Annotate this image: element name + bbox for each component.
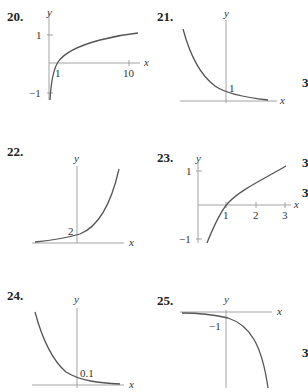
- y-tick-label: −1: [29, 87, 41, 99]
- y-axis-label: y: [73, 293, 79, 305]
- graph-23: y x 1 −1 1 2 3: [179, 152, 299, 245]
- y-axis-label: y: [46, 6, 52, 18]
- y-tick-label: −1: [179, 233, 191, 245]
- x-tick-label: 1: [223, 209, 229, 221]
- curve: [182, 313, 268, 388]
- y-intercept-label: −1: [209, 320, 221, 332]
- graph-24: y x 0.1: [32, 293, 134, 390]
- x-axis-label: x: [128, 236, 134, 248]
- x-axis-label: x: [279, 94, 285, 106]
- x-axis-label: x: [276, 305, 282, 317]
- y-axis-label: y: [73, 152, 79, 164]
- curve: [35, 312, 120, 384]
- y-axis-label: y: [195, 152, 201, 164]
- y-tick-label: 1: [36, 29, 42, 41]
- x-axis-label: x: [143, 56, 149, 68]
- graph-21: y x 1: [180, 7, 285, 106]
- curve: [207, 166, 286, 243]
- y-intercept-label: 2: [68, 225, 74, 237]
- x-axis-label: x: [128, 378, 134, 390]
- x-tick-label: 2: [253, 209, 259, 221]
- graph-20: y x 1 −1 1 10: [29, 6, 149, 100]
- x-tick-label: 1: [55, 67, 61, 79]
- graph-25: y x −1: [180, 293, 282, 388]
- curve: [183, 29, 268, 100]
- graphs-canvas: y x 1 −1 1 10 y x 1 y x 2 y x 1 −1 1: [0, 0, 308, 392]
- x-axis-label: x: [293, 198, 299, 210]
- x-tick-label: 10: [123, 67, 135, 79]
- graph-22: y x 2: [32, 152, 134, 248]
- y-intercept-label: 0.1: [80, 367, 94, 379]
- y-intercept-label: 1: [229, 82, 235, 94]
- x-tick-label: 3: [282, 209, 288, 221]
- y-tick-label: 1: [186, 165, 192, 177]
- y-axis-label: y: [223, 293, 229, 305]
- y-axis-label: y: [223, 7, 229, 19]
